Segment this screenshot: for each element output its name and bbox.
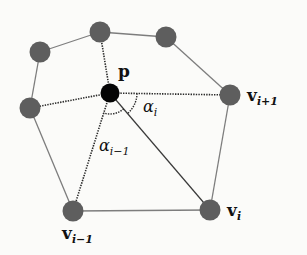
angle-arc-alpha-i <box>128 93 137 113</box>
edge-vip1-vi <box>210 95 230 210</box>
edge-topright-vip1 <box>166 37 230 95</box>
center-point-p <box>101 84 120 103</box>
label-v-sub: i−1 <box>72 233 93 246</box>
label-v-i: vi <box>226 200 241 223</box>
edge-vi-vim1 <box>73 210 210 211</box>
label-v-sub: i+1 <box>257 95 278 108</box>
label-alpha-sub: i−1 <box>110 145 130 158</box>
vertices <box>20 22 241 222</box>
labels: p vi+1 vi vi−1 αi αi−1 <box>61 61 278 246</box>
label-alpha-i: αi <box>143 97 157 119</box>
label-v-sub: i <box>237 210 241 223</box>
label-alpha-main: α <box>143 97 154 116</box>
label-alpha-sub: i <box>154 106 158 119</box>
spoke-p-left <box>30 93 110 108</box>
edge-vim1-left <box>30 108 73 211</box>
vertex-v-i-plus-1 <box>220 85 241 106</box>
vertex-node <box>30 42 51 63</box>
vertex-v-i-minus-1 <box>63 201 84 222</box>
label-v-i-plus-1: vi+1 <box>246 85 278 108</box>
vertex-node <box>156 27 177 48</box>
vertex-node <box>90 22 111 43</box>
vertex-v-i <box>200 200 221 221</box>
polygon-edges <box>30 32 230 211</box>
vertex-node <box>20 98 41 119</box>
diagram-canvas: p vi+1 vi vi−1 αi αi−1 <box>0 0 307 255</box>
angle-arc-alpha-im1 <box>104 109 124 114</box>
label-alpha-main: α <box>99 136 110 155</box>
label-alpha-i-minus-1: αi−1 <box>99 136 130 158</box>
spokes <box>30 32 230 211</box>
label-p: p <box>118 61 130 81</box>
label-v-i-minus-1: vi−1 <box>61 223 93 246</box>
spoke-p-vip1 <box>110 93 230 95</box>
